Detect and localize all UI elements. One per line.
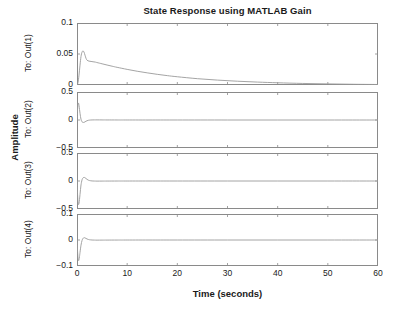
subplot-out4 — [77, 214, 378, 266]
subplot-out1 — [77, 23, 378, 85]
y-ticks-out3: −0.500.5 — [40, 153, 73, 209]
subplot-out2 — [77, 92, 378, 148]
y-axis-label: Amplitude — [9, 103, 20, 173]
subplot-label-out4: To: Out(4) — [23, 213, 33, 265]
x-tick-label: 10 — [122, 269, 131, 278]
y-ticks-out4: −0.100.1 — [40, 214, 73, 266]
y-tick-label: 0 — [68, 115, 73, 124]
trace-svg-out1 — [77, 23, 378, 85]
subplot-label-out2: To: Out(2) — [23, 91, 33, 147]
x-axis-label: Time (seconds) — [77, 288, 378, 299]
page-title: State Response using MATLAB Gain — [77, 5, 378, 16]
matlab-figure: State Response using MATLAB Gain Amplitu… — [0, 0, 398, 309]
x-tick-label: 60 — [373, 269, 382, 278]
y-ticks-out1: 00.050.1 — [40, 23, 73, 85]
subplot-label-out3: To: Out(3) — [23, 152, 33, 208]
y-tick-label: 0 — [68, 176, 73, 185]
x-tick-label: 50 — [323, 269, 332, 278]
y-ticks-out2: −0.500.5 — [40, 92, 73, 148]
x-tick-label: 0 — [75, 269, 80, 278]
subplot-label-out1: To: Out(1) — [23, 22, 33, 84]
y-tick-label: 0.5 — [61, 87, 73, 96]
y-tick-label: 0 — [68, 235, 73, 244]
x-tick-label: 30 — [223, 269, 232, 278]
y-tick-label: 0.1 — [61, 209, 73, 218]
x-ticks: 0102030405060 — [77, 269, 378, 283]
y-tick-label: −0.1 — [56, 261, 73, 270]
y-tick-label: 0.05 — [56, 49, 73, 58]
subplot-out3 — [77, 153, 378, 209]
x-tick-label: 20 — [173, 269, 182, 278]
x-tick-label: 40 — [273, 269, 282, 278]
y-tick-label: 0.1 — [61, 18, 73, 27]
trace-svg-out4 — [77, 214, 378, 266]
y-tick-label: 0.5 — [61, 148, 73, 157]
trace-svg-out3 — [77, 153, 378, 209]
trace-svg-out2 — [77, 92, 378, 148]
